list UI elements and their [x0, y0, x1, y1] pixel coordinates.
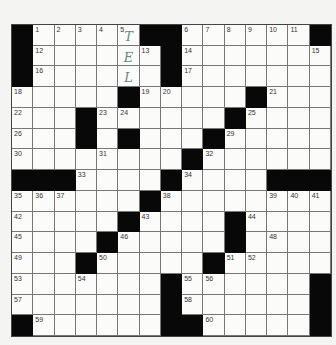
grid-cell[interactable] [203, 170, 224, 191]
grid-cell[interactable]: 46 [118, 232, 139, 253]
grid-cell[interactable] [246, 295, 267, 316]
grid-cell[interactable]: 17 [182, 66, 203, 87]
grid-cell[interactable] [203, 66, 224, 87]
grid-cell[interactable] [76, 66, 97, 87]
grid-cell[interactable]: 44 [246, 212, 267, 233]
grid-cell[interactable] [203, 108, 224, 129]
grid-cell[interactable] [118, 274, 139, 295]
grid-cell[interactable]: 16 [33, 66, 54, 87]
grid-cell[interactable]: 54 [76, 274, 97, 295]
grid-cell[interactable]: 49 [12, 253, 33, 274]
grid-cell[interactable]: 41 [310, 191, 331, 212]
grid-cell[interactable] [55, 87, 76, 108]
grid-cell[interactable] [225, 66, 246, 87]
grid-cell[interactable] [288, 315, 309, 336]
grid-cell[interactable] [246, 46, 267, 67]
grid-cell[interactable]: 43 [140, 212, 161, 233]
grid-cell[interactable] [97, 315, 118, 336]
grid-cell[interactable] [267, 274, 288, 295]
grid-cell[interactable] [33, 108, 54, 129]
grid-cell[interactable] [33, 232, 54, 253]
grid-cell[interactable] [267, 212, 288, 233]
grid-cell[interactable] [288, 274, 309, 295]
grid-cell[interactable] [267, 295, 288, 316]
grid-cell[interactable] [140, 253, 161, 274]
grid-cell[interactable] [55, 66, 76, 87]
grid-cell[interactable]: 37 [55, 191, 76, 212]
grid-cell[interactable]: 2 [55, 25, 76, 46]
grid-cell[interactable] [140, 170, 161, 191]
grid-cell[interactable] [55, 212, 76, 233]
grid-cell[interactable] [97, 191, 118, 212]
grid-cell[interactable] [55, 232, 76, 253]
grid-cell[interactable]: 26 [12, 129, 33, 150]
grid-cell[interactable]: 12 [33, 46, 54, 67]
grid-cell[interactable]: 50 [97, 253, 118, 274]
grid-cell[interactable] [55, 274, 76, 295]
grid-cell[interactable] [267, 149, 288, 170]
grid-cell[interactable]: 14 [182, 46, 203, 67]
grid-cell[interactable] [267, 129, 288, 150]
grid-cell[interactable]: 35 [12, 191, 33, 212]
grid-cell[interactable]: 13 [140, 46, 161, 67]
grid-cell[interactable] [97, 66, 118, 87]
grid-cell[interactable] [182, 87, 203, 108]
grid-cell[interactable]: 7 [203, 25, 224, 46]
grid-cell[interactable] [161, 212, 182, 233]
grid-cell[interactable] [97, 129, 118, 150]
grid-cell[interactable] [288, 129, 309, 150]
grid-cell[interactable]: 57 [12, 295, 33, 316]
grid-cell[interactable] [182, 108, 203, 129]
grid-cell[interactable]: 8 [225, 25, 246, 46]
grid-cell[interactable]: 3 [76, 25, 97, 46]
grid-cell[interactable] [76, 149, 97, 170]
grid-cell[interactable] [203, 295, 224, 316]
grid-cell[interactable] [288, 66, 309, 87]
grid-cell[interactable] [33, 129, 54, 150]
grid-cell[interactable]: 56 [203, 274, 224, 295]
grid-cell[interactable] [55, 129, 76, 150]
grid-cell[interactable]: 9 [246, 25, 267, 46]
grid-cell[interactable] [225, 87, 246, 108]
grid-cell[interactable] [246, 149, 267, 170]
grid-cell[interactable]: 42 [12, 212, 33, 233]
grid-cell[interactable] [288, 149, 309, 170]
grid-cell[interactable]: 36 [33, 191, 54, 212]
grid-cell[interactable] [118, 295, 139, 316]
grid-cell[interactable] [97, 87, 118, 108]
grid-cell[interactable] [246, 129, 267, 150]
grid-cell[interactable] [288, 212, 309, 233]
grid-cell[interactable]: 24 [118, 108, 139, 129]
grid-cell[interactable]: 29 [225, 129, 246, 150]
grid-cell[interactable] [310, 129, 331, 150]
grid-cell[interactable] [161, 108, 182, 129]
grid-cell[interactable] [267, 108, 288, 129]
grid-cell[interactable]: 23 [97, 108, 118, 129]
grid-cell[interactable]: 53 [12, 274, 33, 295]
grid-cell[interactable] [288, 108, 309, 129]
grid-cell[interactable] [310, 253, 331, 274]
grid-cell[interactable]: 18 [12, 87, 33, 108]
grid-cell[interactable] [140, 315, 161, 336]
grid-cell[interactable] [310, 66, 331, 87]
grid-cell[interactable] [97, 212, 118, 233]
grid-cell[interactable]: 19 [140, 87, 161, 108]
grid-cell[interactable]: 1 [33, 25, 54, 46]
grid-cell[interactable] [140, 232, 161, 253]
grid-cell[interactable] [33, 274, 54, 295]
grid-cell[interactable]: 40 [288, 191, 309, 212]
grid-cell[interactable] [246, 170, 267, 191]
grid-cell[interactable] [140, 108, 161, 129]
grid-cell[interactable]: 22 [12, 108, 33, 129]
grid-cell[interactable] [76, 191, 97, 212]
grid-cell[interactable] [310, 212, 331, 233]
grid-cell[interactable] [288, 232, 309, 253]
grid-cell[interactable] [203, 191, 224, 212]
grid-cell[interactable] [55, 315, 76, 336]
grid-cell[interactable] [55, 108, 76, 129]
grid-cell[interactable] [310, 149, 331, 170]
grid-cell[interactable]: 31 [97, 149, 118, 170]
grid-cell[interactable]: 51 [225, 253, 246, 274]
grid-cell[interactable] [288, 87, 309, 108]
grid-cell[interactable] [288, 46, 309, 67]
